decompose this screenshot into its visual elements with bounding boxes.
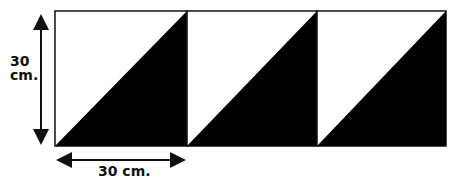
square-3 [317, 11, 446, 146]
width-label: 30 cm. [98, 164, 151, 178]
height-label: 30 cm. [10, 54, 38, 82]
square-1 [55, 11, 187, 146]
square-2 [187, 11, 317, 146]
pattern-diagram [0, 0, 455, 188]
height-label-value: 30 [10, 54, 38, 68]
height-label-unit: cm. [10, 68, 38, 82]
